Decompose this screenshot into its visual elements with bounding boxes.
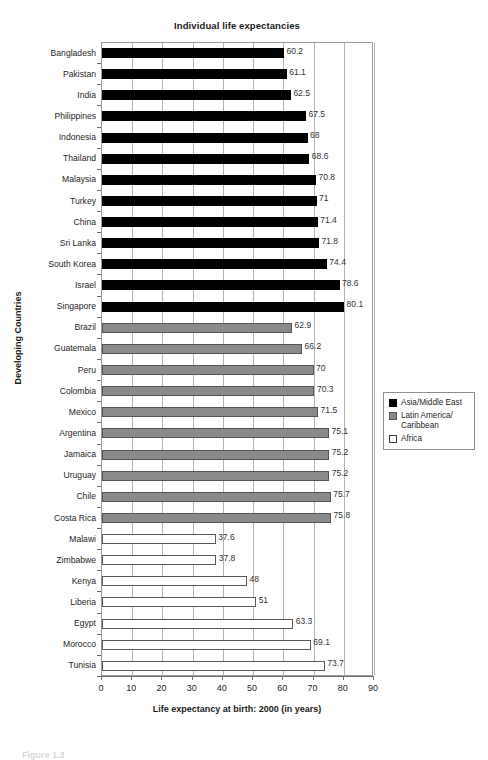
bar-value-label: 71 [319, 193, 328, 204]
bar-value-label: 75.1 [331, 426, 348, 437]
bar[interactable] [102, 619, 293, 629]
bar[interactable] [102, 661, 325, 671]
bar[interactable] [102, 407, 318, 417]
bar-value-label: 67.5 [309, 109, 326, 120]
bar[interactable] [102, 69, 287, 79]
x-axis-tick [313, 676, 314, 680]
category-label: Guatemala [0, 343, 96, 353]
legend-item-latin[interactable]: Latin America/ Caribbean [389, 411, 470, 431]
bar[interactable] [102, 534, 216, 544]
x-axis-tick [192, 676, 193, 680]
bar-row: 73.7 [102, 656, 372, 677]
bar[interactable] [102, 196, 317, 206]
x-axis-tick-label: 70 [298, 683, 328, 693]
x-axis-tick-label: 80 [328, 683, 358, 693]
category-label: Peru [0, 365, 96, 375]
bar[interactable] [102, 640, 311, 650]
bar-row: 75.7 [102, 487, 372, 508]
category-label: Chile [0, 491, 96, 501]
category-label: Thailand [0, 153, 96, 163]
bar-value-label: 71.5 [321, 405, 338, 416]
bar-value-label: 75.2 [332, 468, 349, 479]
bar[interactable] [102, 154, 309, 164]
bars-container: 60.261.162.567.56868.670.87171.471.874.4… [102, 43, 372, 675]
bar[interactable] [102, 323, 292, 333]
legend-label: Latin America/ Caribbean [401, 411, 453, 431]
category-label: Kenya [0, 576, 96, 586]
bar[interactable] [102, 576, 247, 586]
bar[interactable] [102, 259, 327, 269]
y-axis-tick [97, 253, 101, 254]
bar-row: 69.1 [102, 635, 372, 656]
y-axis-tick [97, 655, 101, 656]
plot-area: 60.261.162.567.56868.670.87171.471.874.4… [101, 42, 373, 676]
category-label: Jamaica [0, 449, 96, 459]
bar-row: 80.1 [102, 297, 372, 318]
category-label: Sri Lanka [0, 238, 96, 248]
y-axis-tick [97, 317, 101, 318]
bar[interactable] [102, 471, 329, 481]
y-axis-tick [97, 232, 101, 233]
y-axis-tick [97, 613, 101, 614]
bar[interactable] [102, 133, 308, 143]
legend-label: Asia/Middle East [401, 398, 462, 408]
y-axis-tick [97, 570, 101, 571]
y-axis-tick [97, 444, 101, 445]
bar[interactable] [102, 597, 256, 607]
y-axis-tick [97, 190, 101, 191]
y-axis-tick [97, 359, 101, 360]
bar-row: 71.4 [102, 212, 372, 233]
bar-value-label: 78.6 [342, 278, 359, 289]
bar-value-label: 74.4 [329, 257, 346, 268]
bar[interactable] [102, 280, 340, 290]
bar-value-label: 62.5 [293, 88, 310, 99]
bar[interactable] [102, 302, 344, 312]
bar-value-label: 73.7 [327, 658, 344, 669]
category-label: Liberia [0, 597, 96, 607]
category-label: Morocco [0, 639, 96, 649]
category-label: Mexico [0, 407, 96, 417]
bar-row: 75.8 [102, 508, 372, 529]
bar[interactable] [102, 175, 316, 185]
y-axis-tick [97, 296, 101, 297]
bar-value-label: 70 [316, 363, 325, 374]
bar[interactable] [102, 365, 314, 375]
bar[interactable] [102, 238, 319, 248]
bar[interactable] [102, 90, 291, 100]
x-axis-tick-label: 40 [207, 683, 237, 693]
bar-value-label: 66.2 [305, 341, 322, 352]
x-axis-tick [161, 676, 162, 680]
bar[interactable] [102, 428, 329, 438]
category-label: China [0, 217, 96, 227]
category-label: Colombia [0, 386, 96, 396]
bar[interactable] [102, 492, 331, 502]
bar[interactable] [102, 513, 331, 523]
legend-item-asia[interactable]: Asia/Middle East [389, 398, 470, 408]
bar-row: 78.6 [102, 275, 372, 296]
x-axis-tick-label: 50 [237, 683, 267, 693]
bar-value-label: 75.2 [332, 447, 349, 458]
bar[interactable] [102, 555, 216, 565]
y-axis-tick [97, 274, 101, 275]
bar-value-label: 62.9 [295, 320, 312, 331]
x-axis-tick [252, 676, 253, 680]
bar-value-label: 63.3 [296, 616, 313, 627]
bar-value-label: 37.8 [219, 553, 236, 564]
bar[interactable] [102, 48, 284, 58]
bar[interactable] [102, 386, 314, 396]
legend-item-africa[interactable]: Africa [389, 434, 470, 444]
bar[interactable] [102, 344, 302, 354]
bar[interactable] [102, 111, 306, 121]
category-label: Philippines [0, 111, 96, 121]
bar-row: 70 [102, 360, 372, 381]
bar-row: 75.2 [102, 466, 372, 487]
x-axis-tick-label: 0 [86, 683, 116, 693]
x-axis-tick [101, 676, 102, 680]
figure-caption: Figure 1.3 [22, 750, 65, 760]
bar-value-label: 75.8 [334, 510, 351, 521]
y-axis-tick [97, 549, 101, 550]
y-axis-tick [97, 380, 101, 381]
bar-row: 71.5 [102, 402, 372, 423]
bar[interactable] [102, 450, 329, 460]
bar[interactable] [102, 217, 318, 227]
